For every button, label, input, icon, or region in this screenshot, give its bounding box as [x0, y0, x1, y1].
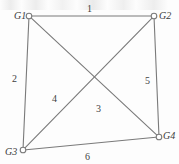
edge-label-5: 5: [145, 76, 150, 86]
graph-node-G3: [20, 147, 26, 153]
edge-label-4: 4: [52, 94, 57, 104]
graph-edge-2: [23, 19, 29, 147]
graph-node-G2: [151, 13, 157, 19]
node-label-G2: G2: [159, 11, 171, 21]
graph-edge-3: [31, 18, 156, 135]
node-label-G3: G3: [5, 147, 17, 157]
graph-edge-5: [154, 19, 159, 134]
graph-edge-4: [25, 18, 152, 147]
graph-figure: 123456G1G2G3G4: [0, 0, 179, 164]
edge-label-2: 2: [12, 74, 17, 84]
graph-canvas: [0, 0, 179, 164]
node-label-G4: G4: [163, 131, 175, 141]
edge-label-6: 6: [85, 152, 90, 162]
graph-edge-6: [26, 137, 156, 149]
graph-node-G4: [156, 134, 162, 140]
edge-label-3: 3: [96, 104, 101, 114]
node-label-G1: G1: [14, 11, 26, 21]
edges-group: [23, 16, 159, 150]
edge-label-1: 1: [87, 4, 92, 14]
graph-node-G1: [26, 13, 32, 19]
